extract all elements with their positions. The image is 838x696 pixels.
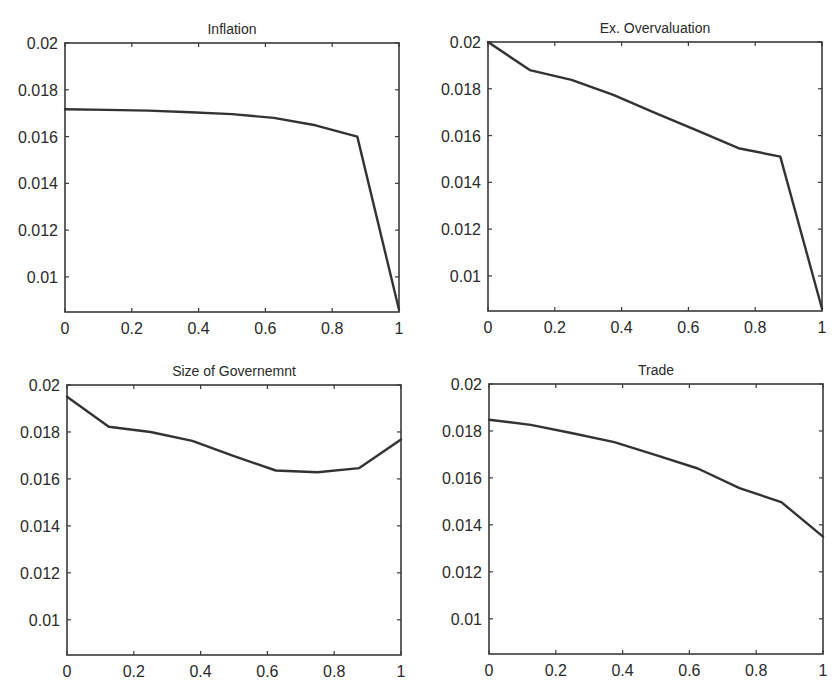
axis-ticks <box>65 43 399 312</box>
y-tick-label: 0.01 <box>27 269 58 286</box>
data-line <box>67 397 401 473</box>
y-tick-label: 0.014 <box>20 518 60 535</box>
y-tick-label: 0.018 <box>441 81 481 98</box>
x-tick-label: 0 <box>484 319 493 336</box>
subplot-title: Size of Governemnt <box>172 363 296 379</box>
x-tick-label: 0 <box>485 662 494 679</box>
y-tick-label: 0.016 <box>18 129 58 146</box>
data-line <box>488 42 822 309</box>
y-tick-label: 0.016 <box>20 471 60 488</box>
subplot-inflation: Inflation 00.20.40.60.810.010.0120.0140.… <box>18 21 404 337</box>
y-tick-label: 0.014 <box>442 517 482 534</box>
x-tick-label: 0 <box>63 663 72 680</box>
x-tick-label: 0.4 <box>611 662 633 679</box>
axis-ticks <box>488 42 822 311</box>
y-tick-label: 0.01 <box>29 612 60 629</box>
x-tick-label: 0.8 <box>321 320 343 337</box>
plot-area <box>67 385 401 655</box>
y-tick-label: 0.012 <box>20 565 60 582</box>
y-tick-label: 0.02 <box>27 35 58 52</box>
x-tick-label: 1 <box>819 662 828 679</box>
x-tick-label: 0.4 <box>187 320 209 337</box>
y-tick-label: 0.012 <box>18 222 58 239</box>
x-tick-label: 0 <box>61 320 70 337</box>
data-line <box>65 109 399 310</box>
subplot-ex-overvaluation: Ex. Overvaluation 00.20.40.60.810.010.01… <box>441 20 827 336</box>
y-tick-label: 0.014 <box>18 175 58 192</box>
y-tick-label: 0.02 <box>451 376 482 393</box>
plot-area <box>488 42 822 311</box>
y-tick-label: 0.016 <box>441 128 481 145</box>
y-tick-label: 0.018 <box>18 82 58 99</box>
y-tick-label: 0.014 <box>441 174 481 191</box>
axis-tick-labels: 00.20.40.60.810.010.0120.0140.0160.0180.… <box>18 35 404 337</box>
y-tick-label: 0.018 <box>20 424 60 441</box>
x-tick-label: 0.6 <box>254 320 276 337</box>
subplot-title: Ex. Overvaluation <box>600 20 711 36</box>
x-tick-label: 0.2 <box>544 319 566 336</box>
plot-area <box>65 43 399 312</box>
figure: Inflation 00.20.40.60.810.010.0120.0140.… <box>0 0 838 696</box>
axis-tick-labels: 00.20.40.60.810.010.0120.0140.0160.0180.… <box>441 34 827 336</box>
subplot-size-of-government: Size of Governemnt 00.20.40.60.810.010.0… <box>20 363 406 680</box>
subplot-title: Trade <box>638 362 674 378</box>
y-tick-label: 0.01 <box>450 268 481 285</box>
y-tick-label: 0.012 <box>442 564 482 581</box>
x-tick-label: 0.6 <box>678 662 700 679</box>
x-tick-label: 1 <box>397 663 406 680</box>
x-tick-label: 0.2 <box>545 662 567 679</box>
axis-ticks <box>67 385 401 655</box>
x-tick-label: 1 <box>818 319 827 336</box>
x-tick-label: 0.8 <box>744 319 766 336</box>
plot-area <box>489 384 823 654</box>
y-tick-label: 0.01 <box>451 611 482 628</box>
y-tick-label: 0.018 <box>442 423 482 440</box>
x-tick-label: 0.8 <box>745 662 767 679</box>
y-tick-label: 0.02 <box>450 34 481 51</box>
subplot-trade: Trade 00.20.40.60.810.010.0120.0140.0160… <box>442 362 828 679</box>
y-tick-label: 0.02 <box>29 377 60 394</box>
x-tick-label: 0.8 <box>323 663 345 680</box>
x-tick-label: 0.2 <box>123 663 145 680</box>
x-tick-label: 0.4 <box>610 319 632 336</box>
x-tick-label: 0.4 <box>189 663 211 680</box>
x-tick-label: 0.6 <box>256 663 278 680</box>
x-tick-label: 0.2 <box>121 320 143 337</box>
data-line <box>489 420 823 537</box>
axis-tick-labels: 00.20.40.60.810.010.0120.0140.0160.0180.… <box>20 377 406 680</box>
y-tick-label: 0.012 <box>441 221 481 238</box>
y-tick-label: 0.016 <box>442 470 482 487</box>
axis-ticks <box>489 384 823 654</box>
subplot-title: Inflation <box>207 21 256 37</box>
x-tick-label: 1 <box>395 320 404 337</box>
x-tick-label: 0.6 <box>677 319 699 336</box>
